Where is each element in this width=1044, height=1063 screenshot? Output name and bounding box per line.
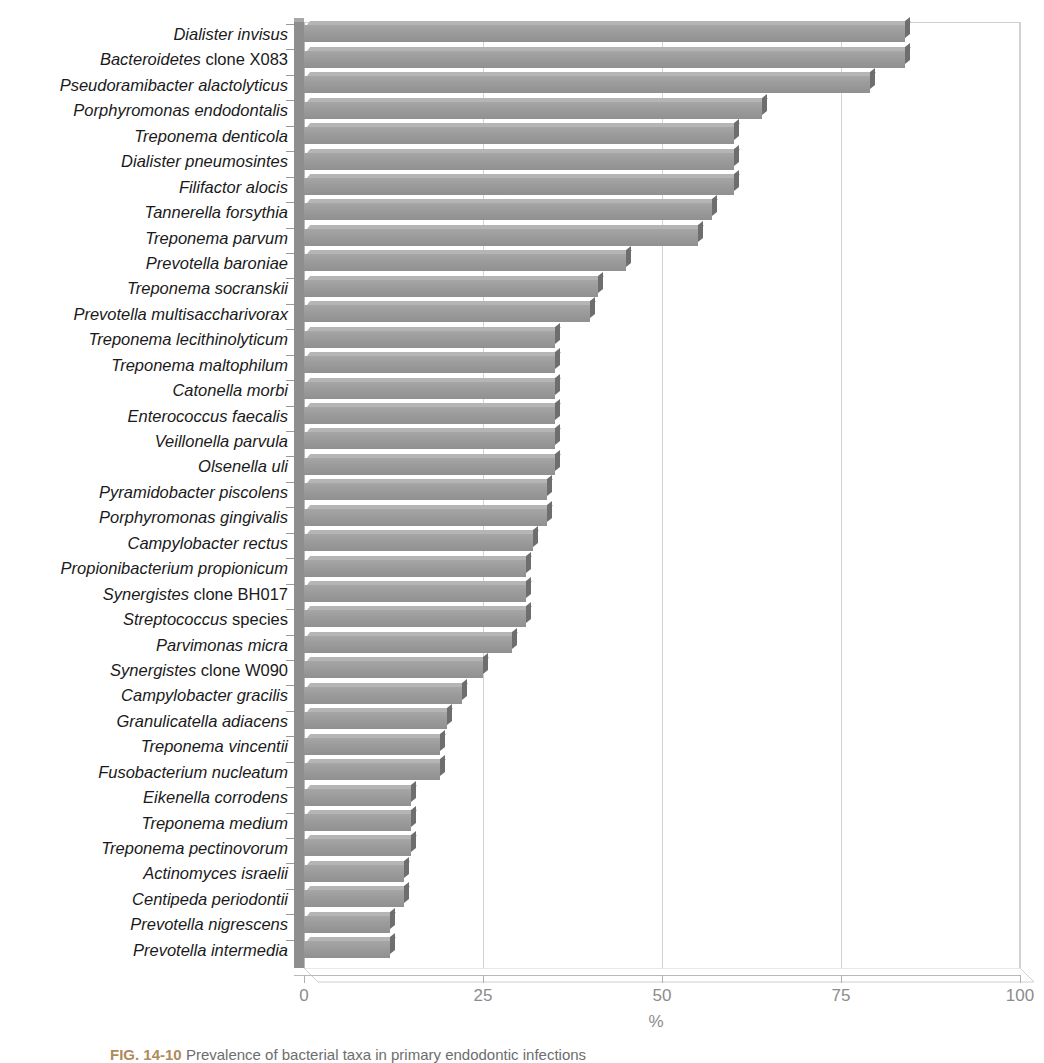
- bar-row: [304, 378, 1020, 403]
- y-axis-label: Treponema lecithinolyticum: [0, 327, 294, 352]
- bar-row: [304, 251, 1020, 276]
- bar-row: [304, 353, 1020, 378]
- y-axis-label: Eikenella corrodens: [0, 785, 294, 810]
- bar[interactable]: [304, 839, 411, 856]
- bar-top-face: [307, 785, 418, 789]
- bar-top-face: [307, 530, 539, 534]
- bar-top-face: [307, 708, 453, 712]
- bar[interactable]: [304, 636, 512, 653]
- bar-row: [304, 454, 1020, 479]
- bar-row: [304, 734, 1020, 759]
- bar-face: [304, 178, 734, 195]
- zero-axis-wall: [294, 22, 304, 968]
- y-axis-label-genus: Catonella morbi: [172, 381, 288, 399]
- bar-face: [304, 585, 526, 602]
- y-axis-label-genus: Veillonella parvula: [155, 432, 288, 450]
- bar-rows: [304, 22, 1020, 963]
- y-axis-label-genus: Campylobacter rectus: [128, 534, 288, 552]
- bar[interactable]: [304, 229, 698, 246]
- y-axis-tick: [286, 100, 294, 101]
- bar-face: [304, 458, 555, 475]
- bar[interactable]: [304, 407, 555, 424]
- bar[interactable]: [304, 941, 390, 958]
- y-axis-label-genus: Treponema denticola: [134, 127, 288, 145]
- y-axis-tick: [286, 533, 294, 534]
- bar[interactable]: [304, 712, 447, 729]
- y-axis-tick: [286, 482, 294, 483]
- bar[interactable]: [304, 127, 734, 144]
- bar[interactable]: [304, 738, 440, 755]
- bar-row: [304, 556, 1020, 581]
- bar[interactable]: [304, 382, 555, 399]
- bar-side-face: [440, 755, 445, 776]
- bar-side-face: [462, 679, 467, 700]
- bar[interactable]: [304, 331, 555, 348]
- y-axis-label-genus: Treponema pectinovorum: [101, 839, 288, 857]
- bar[interactable]: [304, 203, 712, 220]
- bar[interactable]: [304, 76, 870, 93]
- bar[interactable]: [304, 483, 547, 500]
- x-axis-tick-label-25: 25: [474, 986, 493, 1006]
- bar[interactable]: [304, 890, 404, 907]
- bar[interactable]: [304, 509, 547, 526]
- y-axis-label: Campylobacter gracilis: [0, 683, 294, 708]
- bar[interactable]: [304, 280, 598, 297]
- figure-number: FIG. 14-10: [110, 1046, 182, 1063]
- bar[interactable]: [304, 25, 905, 42]
- y-axis-tick: [286, 431, 294, 432]
- bar[interactable]: [304, 916, 390, 933]
- y-axis-label: Treponema socranskii: [0, 276, 294, 301]
- bar-side-face: [404, 857, 409, 878]
- bar-face: [304, 890, 404, 907]
- bar[interactable]: [304, 458, 555, 475]
- bar[interactable]: [304, 254, 626, 271]
- bar[interactable]: [304, 687, 462, 704]
- bar[interactable]: [304, 661, 483, 678]
- bar-top-face: [307, 505, 554, 509]
- y-axis-tick: [286, 228, 294, 229]
- bar-top-face: [307, 810, 418, 814]
- bar-top-face: [307, 174, 740, 178]
- y-axis-label-genus: Actinomyces israelii: [143, 864, 288, 882]
- bar[interactable]: [304, 356, 555, 373]
- y-axis-tick: [286, 609, 294, 610]
- bar-face: [304, 916, 390, 933]
- bar-row: [304, 480, 1020, 505]
- bar-face: [304, 153, 734, 170]
- y-axis-tick: [286, 253, 294, 254]
- bar-side-face: [734, 145, 739, 166]
- y-axis-label-genus: Prevotella nigrescens: [130, 915, 288, 933]
- y-axis-tick: [286, 813, 294, 814]
- bar[interactable]: [304, 432, 555, 449]
- bar[interactable]: [304, 51, 905, 68]
- y-axis-label-genus: Granulicatella adiacens: [116, 712, 288, 730]
- y-axis-label: Treponema medium: [0, 811, 294, 836]
- bar[interactable]: [304, 763, 440, 780]
- y-axis-label-genus: Treponema medium: [142, 814, 288, 832]
- bar[interactable]: [304, 610, 526, 627]
- y-axis-tick: [286, 863, 294, 864]
- y-axis-label: Treponema vincentii: [0, 734, 294, 759]
- x-axis-tick-label-75: 75: [832, 986, 851, 1006]
- bar-side-face: [626, 246, 631, 267]
- bar-side-face: [411, 831, 416, 852]
- bar[interactable]: [304, 585, 526, 602]
- bar[interactable]: [304, 865, 404, 882]
- bar[interactable]: [304, 560, 526, 577]
- bar[interactable]: [304, 153, 734, 170]
- bar-top-face: [307, 937, 396, 941]
- bar[interactable]: [304, 305, 590, 322]
- x-axis-title: %: [648, 1012, 663, 1032]
- bar[interactable]: [304, 789, 411, 806]
- bar-row: [304, 327, 1020, 352]
- bar-side-face: [870, 68, 875, 89]
- bar[interactable]: [304, 814, 411, 831]
- bar[interactable]: [304, 102, 762, 119]
- bar-side-face: [526, 603, 531, 624]
- y-axis-label-genus: Enterococcus faecalis: [128, 407, 289, 425]
- bar[interactable]: [304, 178, 734, 195]
- bar[interactable]: [304, 534, 533, 551]
- y-axis-label-genus: Synergistes: [103, 585, 189, 603]
- y-axis-label-genus: Prevotella baroniae: [146, 254, 288, 272]
- bar-row: [304, 760, 1020, 785]
